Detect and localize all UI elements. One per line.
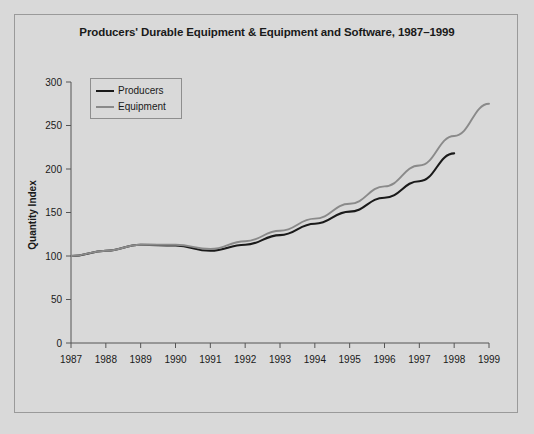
x-tick-label: 1996: [373, 354, 396, 365]
x-tick-label: 1997: [408, 354, 431, 365]
x-tick-label: 1999: [478, 354, 501, 365]
x-tick-label: 1987: [60, 354, 83, 365]
x-axis: 1987198819891990199119921993199419951996…: [60, 343, 501, 365]
x-tick-marks: 1987198819891990199119921993199419951996…: [60, 343, 501, 365]
x-tick-label: 1988: [95, 354, 118, 365]
plot-area: 050100150200250300 198719881989199019911…: [0, 0, 534, 434]
y-axis: 050100150200250300: [45, 77, 71, 349]
y-tick-marks: 050100150200250300: [45, 77, 71, 349]
x-tick-label: 1998: [443, 354, 466, 365]
x-tick-label: 1992: [234, 354, 257, 365]
y-tick-label: 300: [45, 77, 62, 88]
y-axis-title: Quantity Index: [27, 180, 38, 250]
y-tick-label: 250: [45, 120, 62, 131]
legend-label-producers: Producers: [118, 85, 164, 97]
y-tick-label: 200: [45, 164, 62, 175]
legend-label-equipment: Equipment: [118, 101, 166, 113]
x-tick-label: 1994: [304, 354, 327, 365]
legend-swatch-producers: [96, 90, 114, 92]
y-tick-label: 0: [56, 338, 62, 349]
x-tick-label: 1993: [269, 354, 292, 365]
data-series-group: [71, 104, 489, 256]
x-tick-label: 1990: [164, 354, 187, 365]
y-tick-label: 150: [45, 207, 62, 218]
chart-svg: 050100150200250300 198719881989199019911…: [0, 0, 534, 434]
y-tick-label: 50: [51, 294, 63, 305]
x-tick-label: 1995: [339, 354, 362, 365]
x-tick-label: 1989: [130, 354, 153, 365]
series-line-producers: [71, 153, 454, 256]
legend-item-equipment: Equipment: [96, 99, 176, 115]
legend-item-producers: Producers: [96, 83, 176, 99]
x-tick-label: 1991: [199, 354, 222, 365]
chart-page: Producers' Durable Equipment & Equipment…: [0, 0, 534, 434]
legend-swatch-equipment: [96, 106, 114, 108]
chart-legend: Producers Equipment: [90, 78, 182, 119]
y-tick-label: 100: [45, 251, 62, 262]
